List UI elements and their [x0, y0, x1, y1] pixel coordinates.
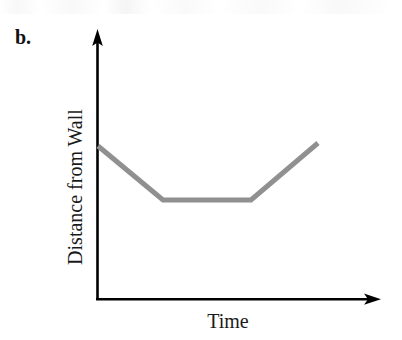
plot-area [0, 0, 402, 340]
x-axis-label: Time [188, 310, 268, 332]
figure-panel-b: b. Distance from Wall Time [0, 0, 402, 340]
data-series-line [98, 143, 318, 200]
y-axis-label: Distance from Wall [64, 82, 86, 292]
x-axis [96, 294, 381, 305]
y-axis [92, 29, 103, 299]
